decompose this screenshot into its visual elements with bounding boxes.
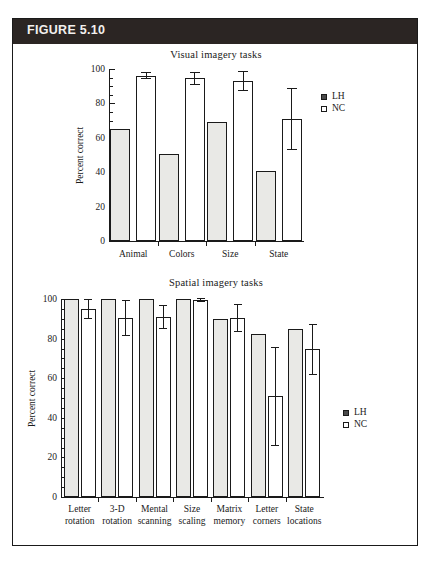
legend-row-lh: LH <box>321 91 381 103</box>
chart-visual-imagery-tasks: Visual imagery tasks 020406080100AnimalC… <box>13 49 419 289</box>
y-axis-tick-label: 100 <box>35 294 57 304</box>
legend-label-lh: LH <box>332 91 345 101</box>
figure-box: FIGURE 5.10 Visual imagery tasks 0204060… <box>12 18 418 546</box>
legend-spatial: LH NC <box>343 407 403 431</box>
chart-spatial-imagery-tasks: Spatial imagery tasks 020406080100Letter… <box>13 277 419 545</box>
error-bar-nc-state <box>282 88 302 150</box>
x-axis-category-label: Statelocations <box>280 504 329 527</box>
bar-nc-letter-rotation <box>81 309 96 497</box>
bar-lh-state <box>256 171 276 241</box>
x-axis-tick <box>98 498 99 502</box>
plot-area-spatial: 020406080100Letterrotation3-DrotationMen… <box>61 299 323 497</box>
x-axis-tick <box>136 498 137 502</box>
y-axis-minor-tick <box>110 78 113 79</box>
error-bar-nc-state-locations <box>305 324 320 375</box>
legend-label-nc: NC <box>332 103 345 113</box>
filled-square-icon <box>343 410 349 416</box>
plot-area-visual: 020406080100AnimalColorsSizeState <box>109 69 303 241</box>
x-axis-tick <box>248 498 249 502</box>
bar-nc-mental-scanning <box>156 317 171 497</box>
bar-lh-state-locations <box>288 329 303 497</box>
y-axis-tick-label: 100 <box>83 64 105 74</box>
open-square-icon <box>321 106 327 112</box>
y-axis-tick-label: 20 <box>35 452 57 462</box>
x-axis-tick <box>173 498 174 502</box>
error-bar-nc-3-d-rotation <box>118 300 133 336</box>
y-axis-minor-tick <box>110 95 113 96</box>
legend-visual: LH NC <box>321 91 381 115</box>
x-axis-line <box>61 497 324 498</box>
bar-lh-size-scaling <box>176 299 191 497</box>
bar-lh-3-d-rotation <box>101 299 116 497</box>
bar-lh-animal <box>110 129 130 241</box>
legend-label-lh: LH <box>354 407 367 417</box>
legend-row-nc: NC <box>321 103 381 115</box>
bar-nc-matrix-memory <box>230 318 245 497</box>
figure-label: FIGURE 5.10 <box>27 23 105 37</box>
y-axis-tick-label: 0 <box>83 236 105 246</box>
legend-row-nc: NC <box>343 419 403 431</box>
y-axis-minor-tick <box>110 121 113 122</box>
y-axis-tick-label: 20 <box>83 202 105 212</box>
y-axis-minor-tick <box>110 112 113 113</box>
y-axis-tick-label: 0 <box>35 492 57 502</box>
filled-square-icon <box>321 94 327 100</box>
error-bar-nc-colors <box>185 72 205 86</box>
chart-title-visual: Visual imagery tasks <box>13 49 419 60</box>
x-axis-tick <box>255 242 256 246</box>
y-axis-tick-label: 80 <box>83 98 105 108</box>
error-bar-nc-animal <box>136 72 156 79</box>
open-square-icon <box>343 422 349 428</box>
y-axis-label-spatial: Percent correct <box>27 369 37 426</box>
bar-nc-colors <box>185 78 205 241</box>
y-axis-label-visual: Percent correct <box>75 126 85 183</box>
bar-nc-3-d-rotation <box>118 318 133 497</box>
figure-header-bar: FIGURE 5.10 <box>13 19 417 44</box>
y-axis-tick <box>110 103 115 104</box>
bar-lh-colors <box>159 154 179 241</box>
y-axis-tick-label: 60 <box>35 373 57 383</box>
bar-nc-size <box>233 81 253 241</box>
x-axis-tick <box>206 242 207 246</box>
bar-nc-animal <box>136 76 156 241</box>
x-axis-tick <box>211 498 212 502</box>
bar-lh-size <box>207 122 227 241</box>
y-axis-tick <box>110 241 115 242</box>
y-axis-tick <box>110 69 115 70</box>
error-bar-nc-mental-scanning <box>156 305 171 329</box>
bar-lh-mental-scanning <box>139 299 154 497</box>
y-axis-tick-label: 80 <box>35 334 57 344</box>
x-axis-category-label: State <box>249 249 310 261</box>
y-axis-tick-label: 40 <box>83 167 105 177</box>
bar-lh-letter-rotation <box>64 299 79 497</box>
legend-row-lh: LH <box>343 407 403 419</box>
bar-lh-letter-corners <box>251 334 266 497</box>
error-bar-nc-size <box>233 71 253 92</box>
y-axis-tick <box>62 497 67 498</box>
y-axis-minor-tick <box>110 86 113 87</box>
y-axis-tick-label: 60 <box>83 133 105 143</box>
bar-lh-matrix-memory <box>213 319 228 497</box>
error-bar-nc-matrix-memory <box>230 304 245 332</box>
chart-title-spatial: Spatial imagery tasks <box>13 277 419 288</box>
error-bar-nc-letter-corners <box>268 347 283 446</box>
error-bar-nc-size-scaling <box>193 298 208 302</box>
error-bar-nc-letter-rotation <box>81 299 96 319</box>
bar-nc-size-scaling <box>193 300 208 497</box>
y-axis-tick-label: 40 <box>35 413 57 423</box>
legend-label-nc: NC <box>354 419 367 429</box>
x-axis-tick <box>158 242 159 246</box>
x-axis-tick <box>286 498 287 502</box>
